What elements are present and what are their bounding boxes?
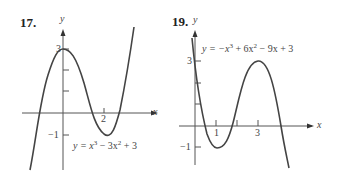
y-axis-arrow-icon bbox=[61, 29, 66, 36]
x-tick-label-2: 2 bbox=[101, 113, 106, 124]
y-axis-label: y bbox=[60, 13, 64, 24]
chart-panel-19: 19. y x 3 −1 1 3 y = −x3 + 6x2 − 9x + 3 bbox=[169, 0, 338, 176]
y-tick-label-neg1: −1 bbox=[48, 129, 59, 140]
equation-label: y = −x3 + 6x2 − 9x + 3 bbox=[202, 42, 293, 54]
chart-panel-17: 17. y x 3 −1 2 y = x3 − 3x2 + 3 bbox=[0, 0, 169, 176]
y-axis-arrow-icon bbox=[193, 30, 198, 37]
x-axis-label: x bbox=[153, 106, 157, 117]
x-tick-label-1: 1 bbox=[214, 127, 219, 138]
y-tick-label-3: 3 bbox=[56, 43, 61, 54]
x-axis-arrow-icon bbox=[307, 124, 314, 129]
x-axis-label: x bbox=[317, 119, 321, 130]
y-tick-label-neg1: −1 bbox=[180, 141, 191, 152]
y-axis-label: y bbox=[193, 14, 197, 25]
y-tick-label-3: 3 bbox=[187, 55, 192, 66]
chart-plot-19 bbox=[169, 0, 338, 176]
x-tick-label-3: 3 bbox=[255, 127, 260, 138]
equation-label: y = x3 − 3x2 + 3 bbox=[73, 139, 137, 151]
curve-19 bbox=[192, 38, 289, 168]
